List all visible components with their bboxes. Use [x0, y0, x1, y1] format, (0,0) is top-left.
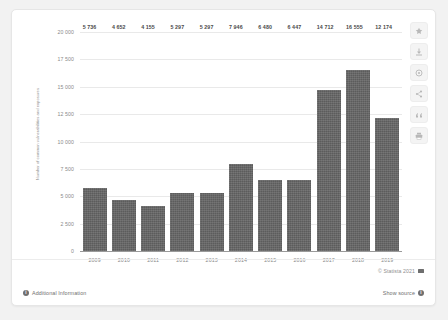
x-axis-line: 0: [80, 251, 402, 252]
y-axis-tick-label: 20 000: [58, 29, 74, 35]
chart-card: Number of common vulnerabilities and exp…: [11, 9, 436, 306]
citation-icon[interactable]: [410, 106, 428, 123]
bar-slot: 14 7122017: [314, 32, 343, 251]
show-source-label: Show source: [383, 290, 415, 296]
bar[interactable]: 5 736: [83, 188, 107, 251]
copyright-notice: © Statista 2021: [378, 268, 424, 274]
bar[interactable]: 4 652: [112, 200, 136, 251]
bar-slot: 7 9462014: [226, 32, 255, 251]
print-icon[interactable]: [410, 127, 428, 144]
y-axis-tick-label: 7 500: [61, 166, 74, 172]
favorite-icon[interactable]: [410, 22, 428, 39]
bar-series: 5 73620094 65220104 15520115 29720125 29…: [80, 32, 402, 251]
y-axis-tick-label: 15 000: [58, 84, 74, 90]
bar-slot: 5 2972013: [197, 32, 226, 251]
bar[interactable]: 6 447: [287, 180, 311, 251]
bar-value-label: 14 712: [317, 24, 334, 30]
y-axis-tick-label: 2 500: [61, 221, 74, 227]
show-source-link[interactable]: Show source i: [383, 290, 424, 296]
y-axis-tick-label: 12 500: [58, 111, 74, 117]
bar[interactable]: 12 174: [375, 118, 399, 251]
bar-value-label: 5 297: [200, 24, 214, 30]
bar-value-label: 4 155: [141, 24, 155, 30]
bar[interactable]: 16 555: [346, 70, 370, 251]
info-icon: i: [23, 290, 29, 296]
bar-value-label: 5 297: [170, 24, 184, 30]
bar[interactable]: 4 155: [141, 206, 165, 251]
chart-toolbar[interactable]: [409, 22, 429, 144]
bar-slot: 5 2972012: [168, 32, 197, 251]
chart-footer: © Statista 2021 i Additional Information…: [12, 259, 435, 305]
y-axis-tick-label: 5 000: [61, 193, 74, 199]
bar[interactable]: 14 712: [317, 90, 341, 251]
bar[interactable]: 6 480: [258, 180, 282, 251]
bar-value-label: 16 555: [346, 24, 363, 30]
bar-slot: 4 1552011: [139, 32, 168, 251]
settings-icon[interactable]: [410, 64, 428, 81]
bar-slot: 4 6522010: [109, 32, 138, 251]
chart-area: Number of common vulnerabilities and exp…: [12, 10, 407, 272]
bar-value-label: 5 736: [83, 24, 97, 30]
bar-value-label: 7 946: [229, 24, 243, 30]
bar-slot: 16 5552018: [343, 32, 372, 251]
y-axis-tick-label: 10 000: [58, 139, 74, 145]
additional-information-link[interactable]: i Additional Information: [23, 290, 86, 296]
bar-value-label: 4 652: [112, 24, 126, 30]
download-icon[interactable]: [410, 43, 428, 60]
bar-value-label: 6 447: [287, 24, 301, 30]
bar-value-label: 6 480: [258, 24, 272, 30]
bar[interactable]: 5 297: [200, 193, 224, 251]
info-icon: i: [418, 290, 424, 296]
y-axis-tick-label: 0: [71, 248, 74, 254]
flag-icon: [418, 269, 424, 273]
bar-slot: 6 4472016: [285, 32, 314, 251]
bar[interactable]: 5 297: [170, 193, 194, 251]
y-axis-tick-label: 17 500: [58, 56, 74, 62]
y-axis-title: Number of common vulnerabilities and exp…: [36, 54, 40, 214]
plot-area: 20 00017 50015 00012 50010 0007 5005 000…: [80, 32, 402, 251]
share-icon[interactable]: [410, 85, 428, 102]
bar-slot: 5 7362009: [80, 32, 109, 251]
bar-value-label: 12 174: [375, 24, 392, 30]
additional-information-label: Additional Information: [32, 290, 86, 296]
copyright-text: © Statista 2021: [378, 268, 415, 274]
bar-slot: 6 4802015: [256, 32, 285, 251]
bar-slot: 12 1742019: [373, 32, 402, 251]
bar[interactable]: 7 946: [229, 164, 253, 251]
